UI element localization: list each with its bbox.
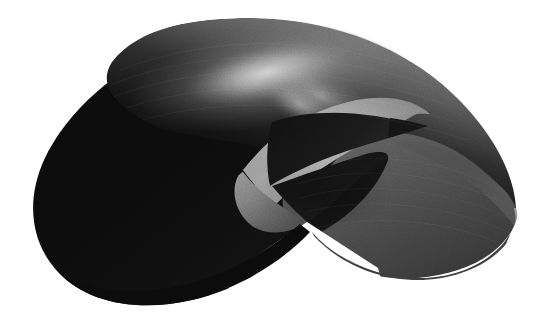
surface-figure	[0, 0, 544, 319]
render-canvas	[0, 0, 544, 319]
interior-shadow	[252, 162, 392, 230]
